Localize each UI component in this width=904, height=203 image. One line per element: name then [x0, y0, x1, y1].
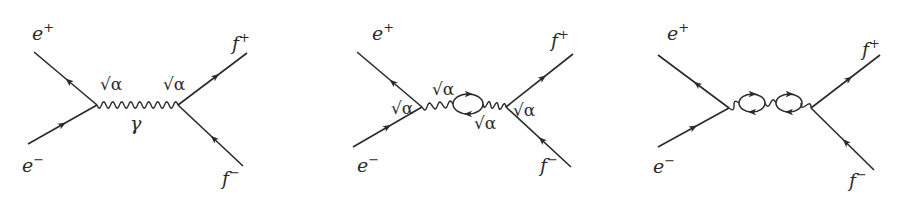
positron-line: [658, 55, 729, 108]
coupling-label: √α: [474, 113, 497, 133]
fermion-loop: [453, 94, 483, 114]
coupling-label: √α: [163, 74, 186, 94]
label-e-plus: e+: [372, 20, 394, 44]
antifermion-line: [811, 55, 880, 108]
coupling-label: √α: [432, 79, 455, 99]
photon-propagator: [97, 102, 178, 108]
label-f-plus: f+: [549, 27, 569, 51]
fermion-loop-1: [739, 94, 765, 112]
diagrams-canvas: e+ e− f+ f− √α √α γ e+ e− f+ f−: [0, 0, 904, 203]
positron-line: [34, 52, 97, 105]
coupling-label: √α: [100, 74, 123, 94]
photon-propagator-middle: [765, 100, 776, 106]
photon-propagator-right: [483, 102, 506, 110]
coupling-label: √α: [513, 100, 536, 120]
label-f-minus: f−: [847, 167, 867, 191]
feynman-diagrams-figure: e+ e− f+ f− √α √α γ e+ e− f+ f−: [0, 0, 904, 203]
diagram-two-loop: e+ e− f+ f−: [653, 20, 880, 191]
fermion-loop-2: [776, 94, 802, 112]
fermion-line: [811, 108, 874, 170]
label-e-plus: e+: [667, 20, 689, 44]
photon-label: γ: [130, 112, 142, 134]
label-e-minus: e−: [357, 152, 379, 176]
photon-propagator-left: [729, 101, 739, 109]
fermion-line: [178, 105, 243, 166]
label-f-plus: f+: [230, 30, 250, 54]
label-e-minus: e−: [653, 153, 675, 177]
coupling-label: √α: [391, 98, 414, 118]
diagram-one-loop: e+ e− f+ f− √α √α √α √α: [353, 20, 573, 176]
label-e-minus: e−: [22, 152, 44, 176]
photon-propagator-left: [422, 101, 453, 110]
diagram-tree-level: e+ e− f+ f− √α √α γ: [22, 20, 250, 189]
label-e-plus: e+: [32, 20, 54, 44]
label-f-minus: f−: [220, 165, 240, 189]
label-f-minus: f−: [538, 152, 558, 176]
antifermion-line: [178, 53, 247, 105]
